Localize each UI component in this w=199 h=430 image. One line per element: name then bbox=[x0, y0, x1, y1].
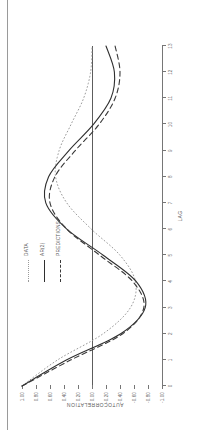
x-axis-tick-label: 5 bbox=[168, 254, 173, 257]
x-axis-tick bbox=[162, 359, 166, 360]
x-axis-title: LAG bbox=[177, 46, 183, 386]
autocorrelation-figure: 012345678910111213 -1.00-0.80-0.60-0.40-… bbox=[0, 0, 199, 430]
legend-swatch-dotted bbox=[28, 260, 29, 282]
rotated-figure-wrapper: 012345678910111213 -1.00-0.80-0.60-0.40-… bbox=[0, 0, 199, 430]
x-axis-tick-label: 0 bbox=[168, 385, 173, 388]
x-axis-tick-label: 12 bbox=[168, 70, 173, 75]
x-axis-tick-label: 9 bbox=[168, 149, 173, 152]
y-axis-tick-label: 0.80 bbox=[34, 392, 39, 414]
x-axis-tick bbox=[162, 280, 166, 281]
y-axis-tick bbox=[162, 385, 163, 389]
x-axis-tick bbox=[162, 307, 166, 308]
x-axis-tick-label: 13 bbox=[168, 43, 173, 48]
x-axis-tick bbox=[162, 97, 166, 98]
legend-label: AR(2) bbox=[40, 242, 45, 256]
x-axis-tick-label: 2 bbox=[168, 332, 173, 335]
x-axis-tick-label: 6 bbox=[168, 228, 173, 231]
x-axis-tick bbox=[162, 45, 166, 46]
legend-label: PREDICTIONS bbox=[56, 221, 61, 256]
x-axis-tick-label: 8 bbox=[168, 175, 173, 178]
x-axis-tick bbox=[162, 202, 166, 203]
x-axis-tick-label: 4 bbox=[168, 280, 173, 283]
x-axis-tick bbox=[162, 254, 166, 255]
x-axis-tick bbox=[162, 333, 166, 334]
y-axis-tick-label: -1.00 bbox=[160, 392, 165, 414]
y-axis-title: AUTOCORRELATION bbox=[40, 402, 150, 408]
x-axis-tick-label: 1 bbox=[168, 359, 173, 362]
legend-swatch-solid bbox=[44, 260, 45, 282]
x-axis-tick-label: 7 bbox=[168, 202, 173, 205]
x-axis-tick bbox=[162, 71, 166, 72]
page-background: 012345678910111213 -1.00-0.80-0.60-0.40-… bbox=[0, 0, 199, 430]
x-axis-tick-label: 3 bbox=[168, 306, 173, 309]
legend-swatch-dashed bbox=[60, 260, 61, 282]
legend-label: DATA bbox=[24, 243, 29, 256]
x-axis-tick-label: 10 bbox=[168, 122, 173, 127]
y-axis-tick-label: 1.00 bbox=[20, 392, 25, 414]
x-axis-tick bbox=[162, 228, 166, 229]
x-axis-tick bbox=[162, 150, 166, 151]
x-axis-tick bbox=[162, 176, 166, 177]
x-axis-tick bbox=[162, 123, 166, 124]
legend: DATAAR(2)PREDICTIONS bbox=[24, 162, 70, 282]
x-axis-tick-label: 11 bbox=[168, 96, 173, 101]
